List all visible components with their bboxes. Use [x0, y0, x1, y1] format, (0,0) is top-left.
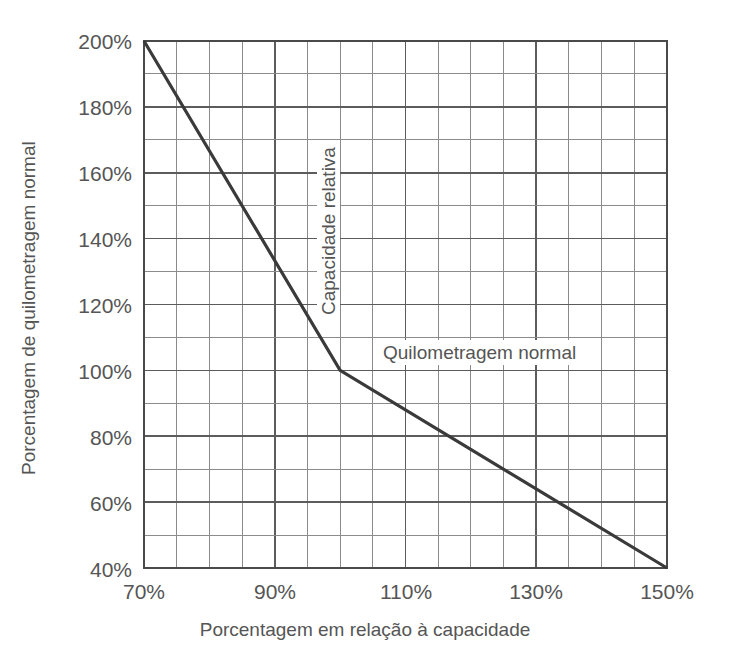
x-tick-label-90: 90% — [235, 580, 315, 604]
x-axis-title: Porcentagem em relação à capacidade — [0, 619, 730, 641]
y-tick-label-120: 120% — [28, 294, 132, 318]
y-tick-label-100: 100% — [28, 360, 132, 384]
x-tick-label-130: 130% — [496, 580, 576, 604]
y-tick-label-140: 140% — [28, 228, 132, 252]
y-tick-label-180: 180% — [28, 96, 132, 120]
chart-figure: 200% 180% 160% 140% 120% 100% 80% 60% 40… — [0, 0, 730, 661]
x-tick-label-70: 70% — [104, 580, 184, 604]
y-tick-label-60: 60% — [28, 492, 132, 516]
x-tick-label-110: 110% — [366, 580, 446, 604]
y-axis-title: Porcentagem de quilometragem normal — [18, 141, 40, 475]
x-tick-label-150: 150% — [627, 580, 707, 604]
y-tick-label-80: 80% — [28, 426, 132, 450]
y-tick-label-160: 160% — [28, 162, 132, 186]
y-tick-label-40: 40% — [28, 558, 132, 582]
y-tick-label-200: 200% — [28, 30, 132, 54]
annotation-quilometragem-normal: Quilometragem normal — [378, 340, 581, 365]
annotation-capacidade-relativa: Capacidade relativa — [317, 144, 340, 318]
